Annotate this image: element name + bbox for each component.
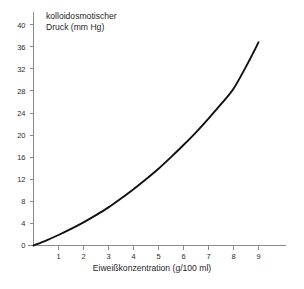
y-axis-tick-label: 4 [21,219,25,228]
x-axis-tick-label: 9 [256,252,260,261]
x-axis-tick-label: 1 [56,252,60,261]
x-axis-label: Eiweißkonzentration (g/100 ml) [0,263,304,273]
x-axis-tick-label: 4 [131,252,135,261]
axes-group [28,12,287,246]
y-axis-tick-label: 12 [17,175,25,184]
y-axis-tick-label: 0 [21,241,25,250]
y-axis-ticks: 0481216202428323640 [17,21,33,251]
x-axis-tick-label: 5 [156,252,160,261]
y-axis-tick-label: 20 [17,131,25,140]
x-axis-tick-label: 6 [181,252,185,261]
chart-title-line-2: Druck (mm Hg) [46,22,104,33]
chart-figure: 0481216202428323640 123456789 kolloidosm… [0,0,304,289]
x-axis-tick-label: 7 [206,252,210,261]
y-axis-tick-label: 8 [21,197,25,206]
y-axis-tick-label: 32 [17,65,25,74]
y-axis-tick-label: 36 [17,43,25,52]
y-axis-tick-label: 16 [17,153,25,162]
x-axis-tick-label: 3 [106,252,110,261]
x-axis-tick-label: 8 [231,252,235,261]
chart-title-line-1: kolloidosmotischer [46,11,117,22]
data-series-curve [34,42,259,245]
y-axis-tick-label: 28 [17,87,25,96]
y-axis-tick-label: 40 [17,21,25,30]
chart-plot-area: 0481216202428323640 123456789 [0,0,304,289]
x-axis-tick-label: 2 [81,252,85,261]
x-axis-ticks: 123456789 [56,246,260,261]
y-axis-tick-label: 24 [17,109,25,118]
oncotic-pressure-curve [34,42,259,245]
